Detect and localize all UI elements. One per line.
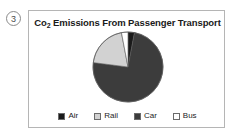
legend-item-bus: Bus <box>173 112 197 120</box>
chart-title-rest: Emissions From Passenger Transport <box>51 17 221 28</box>
legend-label-air: Air <box>68 112 78 120</box>
legend-label-bus: Bus <box>183 112 197 120</box>
chart-title-subscript: 2 <box>47 22 51 29</box>
legend-swatch-bus <box>173 113 180 120</box>
chart-legend: AirRailCarBus <box>29 112 226 120</box>
screenshot-root: 3 Co2 Emissions From Passenger Transport… <box>0 0 233 136</box>
legend-item-car: Car <box>134 112 157 120</box>
legend-swatch-car <box>134 113 141 120</box>
legend-swatch-rail <box>94 113 101 120</box>
legend-item-air: Air <box>58 112 78 120</box>
legend-swatch-air <box>58 113 65 120</box>
pie-chart-area <box>29 31 226 103</box>
chart-title: Co2 Emissions From Passenger Transport <box>29 17 226 28</box>
legend-item-rail: Rail <box>94 112 118 120</box>
legend-label-rail: Rail <box>104 112 118 120</box>
chart-panel: Co2 Emissions From Passenger Transport A… <box>28 10 225 128</box>
pie-chart <box>92 31 164 103</box>
legend-label-car: Car <box>144 112 157 120</box>
question-number-badge: 3 <box>6 11 21 26</box>
chart-title-prefix: Co <box>34 17 46 28</box>
